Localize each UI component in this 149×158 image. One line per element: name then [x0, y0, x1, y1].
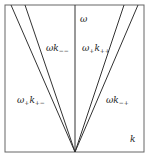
- region-k-sub: −+: [119, 99, 129, 106]
- right-outer-line: [75, 5, 138, 152]
- region-label-outer-left: ω+k+−: [17, 96, 45, 106]
- region-label-inner-right: ω+k++: [82, 44, 110, 54]
- left-outer-line: [11, 5, 75, 152]
- cone-diagram: [0, 0, 149, 158]
- omega-axis-label: ω: [80, 15, 87, 24]
- region-label-inner-left: ωk−−: [46, 44, 69, 54]
- right-inner-line: [75, 5, 124, 152]
- region-k-sub: ++: [100, 47, 110, 54]
- region-label-outer-right: ωk−+: [106, 96, 129, 106]
- k-axis-label: k: [130, 135, 135, 144]
- left-inner-line: [25, 5, 75, 152]
- region-k-sub: −−: [59, 47, 69, 54]
- region-k-sub: +−: [35, 99, 45, 106]
